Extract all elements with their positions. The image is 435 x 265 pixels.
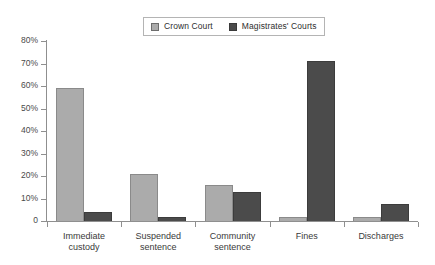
x-axis-tick <box>418 222 419 227</box>
legend-label-crown-court: Crown Court <box>164 22 213 31</box>
x-axis-category-label: Immediate custody <box>47 231 121 253</box>
x-axis-line <box>46 221 418 222</box>
legend-swatch-magistrates-courts <box>229 23 237 31</box>
x-axis-category-label: Fines <box>270 231 344 242</box>
y-axis-tick <box>41 176 46 177</box>
y-axis-tick <box>41 64 46 65</box>
y-axis-tick-label: 60% <box>0 81 38 90</box>
x-axis-category-label: Community sentence <box>195 231 269 253</box>
bar-crown-court <box>56 88 84 221</box>
y-axis-tick-label: 30% <box>0 149 38 158</box>
x-axis-tick <box>344 222 345 227</box>
chart-legend: Crown Court Magistrates' Courts <box>143 17 325 36</box>
y-axis-tick-label: 10% <box>0 194 38 203</box>
bar-crown-court <box>353 217 381 222</box>
plot-area <box>47 41 418 221</box>
y-axis-tick-label: 50% <box>0 104 38 113</box>
y-axis-tick-label: 0 <box>0 216 38 225</box>
legend-swatch-crown-court <box>151 23 159 31</box>
y-axis-tick <box>41 131 46 132</box>
y-axis-tick <box>41 154 46 155</box>
legend-entry-magistrates-courts: Magistrates' Courts <box>229 22 317 31</box>
bar-magistrates-courts <box>158 217 186 222</box>
bar-magistrates-courts <box>307 61 335 221</box>
legend-entry-crown-court: Crown Court <box>151 22 213 31</box>
bar-magistrates-courts <box>233 192 261 221</box>
bar-crown-court <box>205 185 233 221</box>
y-axis-tick-label: 70% <box>0 59 38 68</box>
legend-label-magistrates-courts: Magistrates' Courts <box>242 22 317 31</box>
bar-crown-court <box>279 217 307 222</box>
y-axis-tick <box>41 199 46 200</box>
bar-magistrates-courts <box>84 212 112 221</box>
y-axis-tick <box>41 221 46 222</box>
y-axis-tick <box>41 109 46 110</box>
x-axis-category-label: Discharges <box>344 231 418 242</box>
bar-crown-court <box>130 174 158 221</box>
y-axis-tick-label: 40% <box>0 126 38 135</box>
y-axis-tick-label: 80% <box>0 36 38 45</box>
x-axis-tick <box>47 222 48 227</box>
x-axis-tick <box>121 222 122 227</box>
y-axis-tick <box>41 86 46 87</box>
bar-magistrates-courts <box>381 204 409 221</box>
y-axis-tick-label: 20% <box>0 171 38 180</box>
x-axis-tick <box>195 222 196 227</box>
x-axis-category-label: Suspended sentence <box>121 231 195 253</box>
y-axis-tick <box>41 41 46 42</box>
x-axis-tick <box>270 222 271 227</box>
bar-chart: Crown Court Magistrates' Courts 010%20%3… <box>0 0 435 265</box>
